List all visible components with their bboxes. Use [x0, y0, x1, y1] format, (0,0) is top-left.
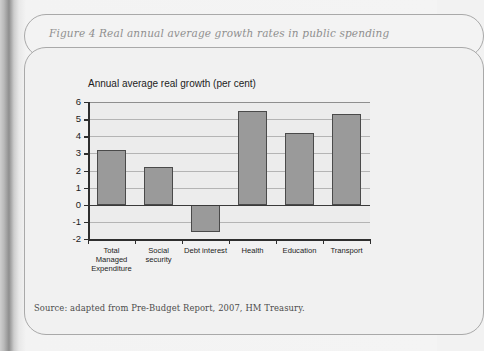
- gridline: [88, 188, 370, 189]
- source-note: Source: adapted from Pre-Budget Report, …: [34, 303, 305, 313]
- gridline: [88, 136, 370, 137]
- y-axis: [88, 102, 90, 239]
- y-axis-label: 6: [76, 97, 81, 107]
- figure-caption: Figure 4 Real annual average growth rate…: [49, 27, 389, 39]
- gridline: [88, 222, 370, 223]
- bar: [332, 114, 361, 205]
- x-axis-tick: [276, 239, 277, 244]
- y-axis-label: 0: [76, 200, 81, 210]
- x-axis-label: Debt interest: [182, 246, 229, 255]
- y-axis-tick: [84, 102, 88, 103]
- gridline: [88, 102, 370, 103]
- y-axis-label: 5: [76, 114, 81, 124]
- x-axis-label: Transport: [323, 246, 370, 255]
- bar: [191, 205, 220, 232]
- chart-title: Annual average real growth (per cent): [88, 78, 256, 89]
- bar-chart: Annual average real growth (per cent) 65…: [60, 78, 380, 288]
- y-axis-label: 1: [76, 183, 81, 193]
- gridline: [88, 119, 370, 120]
- x-axis-label: Health: [229, 246, 276, 255]
- y-axis-tick: [84, 222, 88, 223]
- plot-area: [88, 102, 370, 239]
- bar: [144, 167, 173, 205]
- gridline: [88, 153, 370, 154]
- x-axis-tick: [88, 239, 89, 244]
- y-axis-label: 3: [76, 149, 81, 159]
- x-axis-label: Total Managed Expenditure: [88, 246, 135, 273]
- x-axis-tick: [323, 239, 324, 244]
- x-axis-tick: [182, 239, 183, 244]
- x-axis-tick: [229, 239, 230, 244]
- y-axis-label: 2: [76, 166, 81, 176]
- y-axis-tick: [84, 171, 88, 172]
- y-axis-tick: [84, 205, 88, 206]
- zero-line: [88, 205, 370, 206]
- y-axis-label: -1: [73, 217, 81, 227]
- y-axis-tick: [84, 136, 88, 137]
- bar: [97, 150, 126, 205]
- x-axis-label: Education: [276, 246, 323, 255]
- x-axis-label: Social security: [135, 246, 182, 264]
- y-axis-tick: [84, 239, 88, 240]
- bar: [238, 111, 267, 205]
- y-axis-tick: [84, 153, 88, 154]
- x-axis-tick: [370, 239, 371, 244]
- y-axis-tick: [84, 119, 88, 120]
- y-axis-tick: [84, 188, 88, 189]
- gridline: [88, 171, 370, 172]
- y-axis-label: -2: [73, 234, 81, 244]
- y-axis-label: 4: [76, 132, 81, 142]
- x-axis-tick: [135, 239, 136, 244]
- bar: [285, 133, 314, 205]
